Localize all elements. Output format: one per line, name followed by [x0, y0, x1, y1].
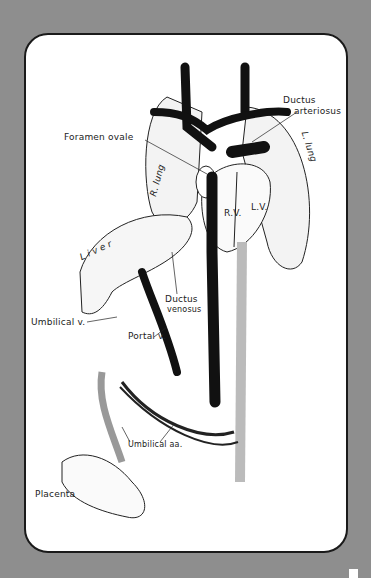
label-umbilical-aa: Umbilical aa. [128, 440, 182, 449]
label-foramen-ovale: Foramen ovale [64, 132, 133, 142]
illustration-card: Ductus arteriosus Foramen ovale R. lung … [24, 33, 348, 553]
label-ductus-arteriosus-2: arteriosus [294, 106, 341, 116]
placenta [62, 455, 145, 518]
label-umbilical-v: Umbilical v. [31, 317, 85, 327]
label-rv: R.V. [224, 208, 241, 218]
corner-mark [349, 569, 358, 578]
portal-vein [142, 272, 177, 372]
label-portal-v: Portal v. [128, 331, 166, 341]
inferior-vena-cava [212, 177, 215, 402]
label-ductus-arteriosus: Ductus [283, 95, 316, 105]
label-ductus-venosus-2: venosus [167, 305, 201, 314]
label-placenta: Placenta [35, 489, 75, 499]
pulmonary-trunk [232, 147, 264, 152]
label-ductus-venosus: Ductus [165, 294, 198, 304]
label-lv: L.V. [251, 202, 268, 212]
